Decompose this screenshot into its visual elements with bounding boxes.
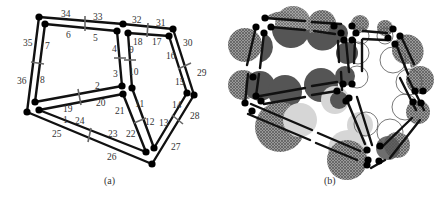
node: [248, 107, 255, 114]
edge-label: 14: [172, 100, 182, 110]
edge-label: 10: [129, 67, 139, 77]
edge-label: 4: [112, 44, 117, 54]
figure-canvas: 1 2 3 4 5 6 7 8 9 10 11 12 13 14 15 16 1…: [0, 0, 444, 199]
edge-6-5: [45, 24, 117, 31]
node: [417, 99, 424, 106]
node: [241, 99, 248, 106]
node: [35, 13, 42, 20]
node: [409, 98, 416, 105]
edge-18-17: [128, 33, 169, 36]
edge-label: 23: [108, 129, 118, 139]
panel-a: 1 2 3 4 5 6 7 8 9 10 11 12 13 14 15 16 1…: [17, 9, 207, 187]
edge-label: 35: [23, 38, 33, 48]
edge-label: 30: [183, 38, 193, 48]
node: [23, 108, 30, 115]
node: [391, 40, 398, 47]
node: [150, 144, 157, 151]
edge-36-35: [27, 17, 39, 112]
panel-a-caption: (a): [104, 175, 115, 187]
edge-label: 29: [197, 68, 207, 78]
edge-label: 33: [93, 12, 103, 22]
node: [252, 23, 259, 30]
node: [257, 97, 264, 104]
edge-label: 28: [190, 111, 200, 121]
node: [348, 80, 355, 87]
edge-label: 2: [95, 81, 100, 91]
edge: [363, 39, 386, 40]
node: [352, 29, 359, 36]
node: [35, 106, 42, 113]
node: [249, 73, 256, 80]
node: [119, 90, 126, 97]
edge-label: 19: [63, 104, 73, 114]
panel-b-caption: (b): [324, 175, 336, 187]
edge-label: 15: [175, 77, 185, 87]
node: [384, 34, 391, 41]
node: [148, 160, 155, 167]
node: [41, 20, 48, 27]
tick-31-32: [147, 23, 148, 37]
node: [118, 82, 125, 89]
node: [339, 80, 346, 87]
node: [375, 157, 382, 164]
edge-label: 1: [63, 115, 68, 125]
node: [337, 29, 344, 36]
node: [119, 20, 126, 27]
edge-label: 26: [107, 152, 117, 162]
node: [363, 146, 370, 153]
node: [330, 22, 337, 29]
edge-label: 21: [115, 106, 125, 116]
node: [348, 36, 355, 43]
node: [340, 36, 347, 43]
node: [342, 97, 349, 104]
panel-b: (b): [228, 6, 434, 187]
node: [183, 89, 190, 96]
edge-label: 20: [96, 98, 106, 108]
node: [333, 87, 340, 94]
hatched-disc: [228, 28, 262, 62]
edge-label: 36: [17, 76, 27, 86]
edge-34-33: [39, 17, 123, 24]
edge-label: 24: [75, 116, 85, 126]
node: [128, 84, 135, 91]
edge-label: 3: [113, 69, 118, 79]
node: [363, 161, 370, 168]
edge: [338, 41, 339, 62]
node: [190, 91, 197, 98]
edge-label: 16: [166, 51, 176, 61]
edge-label: 17: [152, 37, 162, 47]
edge-label: 5: [93, 33, 98, 43]
edge-label: 31: [156, 18, 166, 28]
node: [31, 98, 38, 105]
node: [348, 22, 355, 29]
edge-label: 18: [133, 37, 143, 47]
node: [411, 87, 418, 94]
edge-label: 12: [145, 117, 155, 127]
edge-label: 34: [61, 9, 71, 19]
edge-label: 11: [135, 99, 144, 109]
edge-label: 32: [132, 15, 142, 25]
node: [169, 25, 176, 32]
edge-label: 27: [171, 142, 181, 152]
edge-label: 7: [45, 41, 50, 51]
edge-label: 8: [40, 75, 45, 85]
node: [396, 32, 403, 39]
node: [376, 142, 383, 149]
node: [260, 29, 267, 36]
node: [419, 87, 426, 94]
edge-label: 6: [66, 30, 71, 40]
edge: [354, 40, 355, 63]
node: [267, 23, 274, 30]
node: [165, 32, 172, 39]
edge-label: 25: [52, 129, 62, 139]
node: [261, 14, 268, 21]
node: [389, 25, 396, 32]
edge-label: 22: [126, 129, 136, 139]
node: [124, 29, 131, 36]
node: [142, 148, 149, 155]
node: [113, 27, 120, 34]
edge-label: 13: [159, 118, 169, 128]
